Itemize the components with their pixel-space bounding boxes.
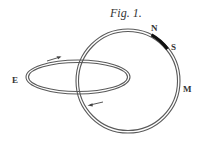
arrow-left-icon bbox=[88, 102, 104, 107]
label-magnet: M bbox=[183, 84, 192, 94]
label-north: N bbox=[151, 23, 158, 33]
arrow-right-icon bbox=[47, 56, 62, 61]
figure-title: Fig. 1. bbox=[109, 6, 142, 20]
magnet-segment bbox=[152, 35, 168, 49]
label-south: S bbox=[171, 42, 176, 52]
label-east: E bbox=[12, 75, 18, 85]
figure-diagram: Fig. 1. N S M E bbox=[0, 0, 201, 144]
